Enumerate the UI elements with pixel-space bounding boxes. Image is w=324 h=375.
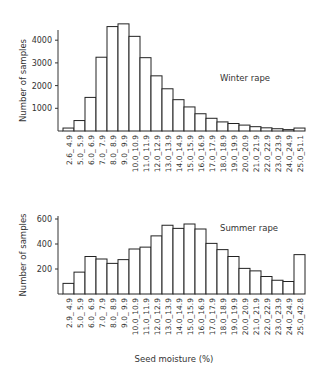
x-tick-label: 18.0_18.9 [219,135,228,172]
y-tick-label: 600 [37,215,52,224]
y-axis-label: Number of samples [18,38,28,122]
bar [74,272,85,294]
bar [118,24,129,131]
x-tick-label: 5.0_ 5.9 [76,298,85,328]
bar [162,225,173,294]
x-tick-label: 15.0_15.9 [186,135,195,172]
y-tick-label: 200 [37,265,52,274]
x-tick-label: 12.0_12.9 [153,298,162,335]
y-tick-label: 3000 [32,59,52,68]
x-tick-label: 16.0_16.9 [197,135,206,172]
bar [206,243,217,294]
summer-rape-chart: 200400600Number of samples2.9_ 4.95.0_ 5… [0,190,324,375]
bar [162,89,173,131]
bar [272,280,283,294]
x-tick-label: 8.0_ 8.9 [109,135,118,165]
x-tick-label: 5.0_ 5.9 [76,135,85,165]
x-tick-label: 8.0_ 8.9 [109,298,118,328]
bar [85,97,96,131]
x-tick-label: 7.0_ 7.9 [98,298,107,328]
x-tick-label: 14.0_14.9 [175,135,184,172]
bar [63,283,74,294]
bar [283,282,294,295]
bar [294,255,305,294]
bar [217,250,228,294]
x-tick-label: 21.0_21.9 [252,298,261,335]
x-tick-label: 24.0_24.9 [285,135,294,172]
bar [217,122,228,131]
x-tick-label: 10.0_10.9 [131,298,140,335]
x-tick-label: 14.0_14.9 [175,298,184,335]
bar [63,128,74,131]
bar [184,224,195,294]
x-tick-label: 25.0_51.1 [296,135,305,172]
x-tick-label: 22.0_22.9 [263,298,272,335]
x-tick-label: 2.6_ 4.9 [65,135,74,165]
bar [250,271,261,294]
bar [173,228,184,294]
x-tick-label: 11.0_11.9 [142,135,151,172]
bar [74,121,85,131]
bar [261,277,272,295]
chart-title: Summer rape [220,223,278,233]
x-tick-label: 19.0_19.9 [230,135,239,172]
x-tick-label: 17.0_17.9 [208,135,217,172]
x-tick-label: 24.0_24.9 [285,298,294,335]
x-tick-label: 9.0_ 9.9 [120,298,129,328]
y-tick-label: 1000 [32,104,52,113]
x-tick-label: 16.0_16.9 [197,298,206,335]
x-tick-label: 23.0_23.9 [274,135,283,172]
x-tick-label: 10.0_10.9 [131,135,140,172]
y-tick-label: 2000 [32,82,52,91]
x-tick-label: 21.0_21.9 [252,135,261,172]
x-tick-label: 13.0_13.9 [164,135,173,172]
y-tick-label: 4000 [32,36,52,45]
bar [107,263,118,294]
bar [283,130,294,131]
x-tick-label: 20.0_20.9 [241,298,250,335]
x-tick-label: 6.0_ 6.9 [87,135,96,165]
x-tick-label: 18.0_18.9 [219,298,228,335]
x-tick-label: 23.0_23.9 [274,298,283,335]
bar [107,27,118,131]
winter-rape-chart: 1000200030004000Number of samples2.6_ 4.… [0,0,324,190]
x-tick-label: 19.0_19.9 [230,298,239,335]
x-tick-label: 12.0_12.9 [153,135,162,172]
bar [140,58,151,131]
x-tick-label: 15.0_15.9 [186,298,195,335]
bar [261,128,272,131]
bar [151,236,162,294]
bar [184,107,195,131]
bar [294,128,305,131]
x-axis-label: Seed moisture (%) [135,354,214,364]
bar [173,100,184,131]
bar [272,129,283,131]
x-tick-label: 20.0_20.9 [241,135,250,172]
bar [250,127,261,131]
chart-title: Winter rape [220,73,270,83]
bar [228,124,239,131]
x-tick-label: 7.0_ 7.9 [98,135,107,165]
x-tick-label: 2.9_ 4.9 [65,298,74,328]
x-tick-label: 22.0_22.9 [263,135,272,172]
y-tick-label: 400 [37,240,52,249]
bar [85,257,96,295]
bar [129,249,140,294]
x-tick-label: 17.0_17.9 [208,298,217,335]
bar [129,36,140,131]
y-axis-label: Number of samples [18,213,28,297]
x-tick-label: 6.0_ 6.9 [87,298,96,328]
bar [195,114,206,131]
bar [140,247,151,294]
x-tick-label: 25.0_42.8 [296,298,305,335]
x-tick-label: 13.0_13.9 [164,298,173,335]
bar [239,268,250,294]
bar [228,257,239,295]
bar [96,57,107,131]
bar [195,229,206,294]
x-tick-label: 9.0_ 9.9 [120,135,129,165]
bar [239,125,250,131]
bar [96,259,107,294]
bar [151,76,162,131]
x-tick-label: 11.0_11.9 [142,298,151,335]
